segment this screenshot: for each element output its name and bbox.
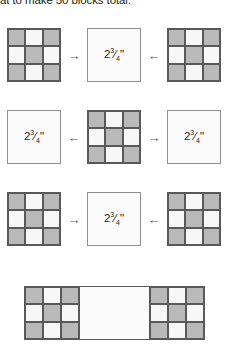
patch-cell [185, 210, 202, 227]
patch-cell [8, 210, 25, 227]
measurement-label: 23⁄4" [104, 211, 124, 226]
patch-cell [25, 193, 42, 210]
patch-cell [186, 322, 204, 339]
patch-cell [105, 111, 122, 128]
instruction-caption: at to make 50 blocks total. [0, 0, 228, 7]
patch-cell [168, 304, 186, 321]
patch-cell [61, 322, 79, 339]
patch-cell [168, 322, 186, 339]
patch-cell [61, 304, 79, 321]
patch-cell [203, 193, 220, 210]
arrow-left-icon: ← [61, 131, 87, 144]
patch-cell [25, 29, 42, 46]
diagram-row-3: → 23⁄4" ← [0, 192, 228, 246]
patch-cell [150, 287, 168, 304]
patch-cell [150, 322, 168, 339]
patch-cell [168, 210, 185, 227]
patch-cell [61, 287, 79, 304]
patch-cell [185, 64, 202, 81]
patch-cell [43, 29, 60, 46]
patch-cell [43, 46, 60, 63]
patch-cell [25, 322, 43, 339]
plain-square-segment [79, 287, 150, 339]
patch-cell [25, 304, 43, 321]
diagram-row-2: 23⁄4" ← → 23⁄4" [0, 110, 228, 164]
patch-cell [25, 210, 42, 227]
patch-cell [168, 46, 185, 63]
measurement-label: 23⁄4" [184, 129, 204, 144]
patch-cell [203, 210, 220, 227]
patch-cell [43, 304, 61, 321]
patch-cell [8, 46, 25, 63]
plain-square: 23⁄4" [167, 110, 221, 164]
patch-cell [8, 193, 25, 210]
patch-cell [185, 228, 202, 245]
measurement-label: 23⁄4" [24, 129, 44, 144]
patch-cell [168, 29, 185, 46]
patch-cell [88, 111, 105, 128]
assembled-row-strip [24, 286, 205, 340]
patch-cell [185, 29, 202, 46]
patch-cell [185, 193, 202, 210]
patch-cell [105, 128, 122, 145]
patch-cell [43, 210, 60, 227]
nine-patch-block [150, 287, 204, 339]
measurement-label: 23⁄4" [104, 47, 124, 62]
patch-cell [8, 29, 25, 46]
nine-patch-block [25, 287, 79, 339]
patch-cell [123, 146, 140, 163]
arrow-left-icon: ← [141, 49, 167, 62]
patch-cell [88, 146, 105, 163]
nine-patch-block [167, 192, 221, 246]
patch-cell [43, 322, 61, 339]
patch-cell [43, 64, 60, 81]
patch-cell [168, 64, 185, 81]
patch-cell [186, 304, 204, 321]
patch-cell [186, 287, 204, 304]
patch-cell [203, 46, 220, 63]
patch-cell [203, 64, 220, 81]
patch-cell [88, 128, 105, 145]
patch-cell [123, 128, 140, 145]
patch-cell [8, 228, 25, 245]
plain-square: 23⁄4" [87, 28, 141, 82]
arrow-left-icon: ← [141, 213, 167, 226]
nine-patch-block [87, 110, 141, 164]
patch-cell [105, 146, 122, 163]
patch-cell [203, 228, 220, 245]
arrow-right-icon: → [61, 49, 87, 62]
arrow-right-icon: → [141, 131, 167, 144]
patch-cell [43, 287, 61, 304]
nine-patch-block [7, 28, 61, 82]
patch-cell [25, 287, 43, 304]
patch-cell [168, 228, 185, 245]
patch-cell [25, 228, 42, 245]
plain-square: 23⁄4" [7, 110, 61, 164]
patch-cell [43, 228, 60, 245]
arrow-right-icon: → [61, 213, 87, 226]
nine-patch-block [7, 192, 61, 246]
plain-square: 23⁄4" [87, 192, 141, 246]
diagram-row-1: → 23⁄4" ← [0, 28, 228, 82]
patch-cell [25, 46, 42, 63]
patch-cell [168, 193, 185, 210]
patch-cell [185, 46, 202, 63]
nine-patch-block [167, 28, 221, 82]
patch-cell [168, 287, 186, 304]
patch-cell [8, 64, 25, 81]
patch-cell [43, 193, 60, 210]
patch-cell [150, 304, 168, 321]
patch-cell [203, 29, 220, 46]
patch-cell [123, 111, 140, 128]
patch-cell [25, 64, 42, 81]
